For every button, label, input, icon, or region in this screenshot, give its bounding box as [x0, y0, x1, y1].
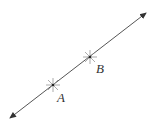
line-diagram — [0, 0, 154, 128]
point-a-label: A — [57, 91, 65, 104]
diagram-canvas: A B — [0, 0, 154, 128]
point-b-label: B — [96, 62, 104, 75]
line-ab — [10, 13, 146, 118]
point-b-marker — [83, 50, 97, 64]
